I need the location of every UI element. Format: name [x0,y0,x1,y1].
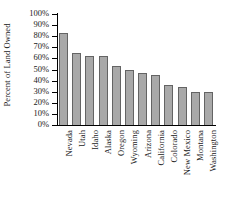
x-axis-label: Montana [189,128,202,202]
bar [204,92,213,125]
bar [138,73,147,125]
x-axis-label: Wyoming [123,128,136,202]
bar-chart: Percent of Land Owned 100%90%80%70%60%50… [0,0,227,203]
x-axis-label: California [149,128,162,202]
x-axis-label: Washington [202,128,215,202]
x-axis-label: Arizona [136,128,149,202]
y-axis-tick-label: 40% [9,76,49,85]
bar [99,56,108,125]
x-axis-label: Nevada [57,128,70,202]
bar [72,53,81,125]
y-axis-tick-label: 10% [9,109,49,118]
x-axis-label: Oregon [110,128,123,202]
x-axis-label: New Mexico [176,128,189,202]
bar [85,56,94,125]
y-axis-tick-label: 20% [9,98,49,107]
y-axis-tick-label: 100% [9,9,49,18]
y-axis-tick-label: 50% [9,65,49,74]
x-axis-label: Utah [70,128,83,202]
y-axis-tick-label: 70% [9,42,49,51]
y-axis-tick-label: 90% [9,20,49,29]
x-axis-label: Colorado [162,128,175,202]
bar [151,75,160,125]
bar [59,33,68,125]
x-axis-label: Idaho [83,128,96,202]
plot-area [57,14,215,125]
bar [178,87,187,125]
x-axis-label-text: Washington [208,130,218,171]
y-axis-tick-label: 80% [9,31,49,40]
y-axis-tick [52,125,58,126]
y-axis-tick-label: 60% [9,53,49,62]
bar [164,85,173,125]
x-axis-line [57,125,216,126]
y-axis-tick-label: 0% [9,120,49,129]
bar [112,66,121,125]
bar [125,70,134,126]
bar [191,92,200,125]
x-axis-label: Alaska [97,128,110,202]
y-axis-tick-label: 30% [9,87,49,96]
